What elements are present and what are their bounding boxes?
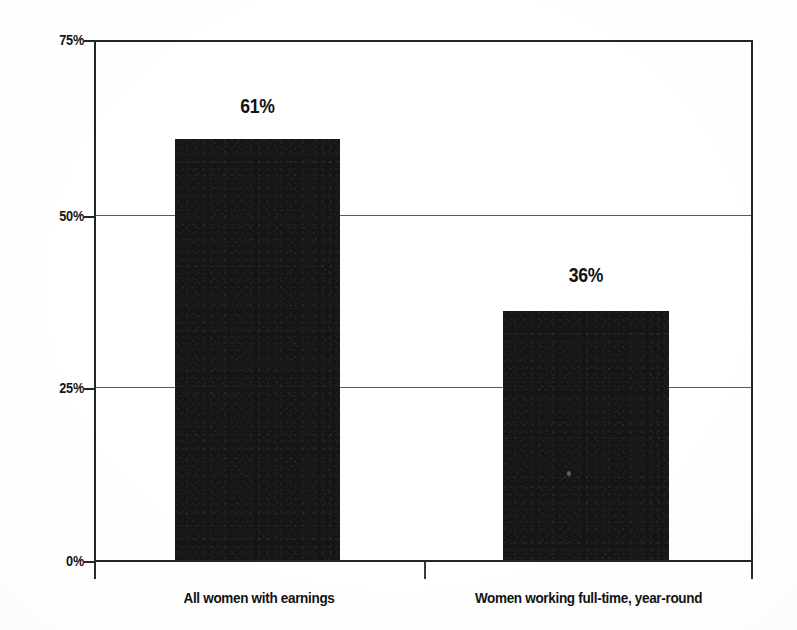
- y-axis-tick-label-50: 50%: [33, 207, 84, 224]
- y-axis-tickmark-25: [84, 388, 94, 390]
- bar-value-label-1: 61%: [185, 95, 330, 118]
- x-axis-category-label-2: Women working full-time, year-round: [440, 589, 736, 606]
- y-axis-tickmark-75: [84, 40, 94, 42]
- bar-chart: 75% 50% 25% 0% 61% 36% All women with ea…: [0, 0, 797, 630]
- y-axis-tick-label-0: 0%: [33, 552, 84, 569]
- bar-women-working-full-time-year-round: [503, 311, 669, 560]
- x-axis-cap-right: [751, 562, 753, 579]
- x-axis-cap-left: [94, 562, 96, 579]
- y-axis-tickmark-0: [84, 561, 94, 563]
- bar-all-women-with-earnings: [175, 139, 340, 560]
- y-axis-tick-label-75: 75%: [33, 31, 84, 48]
- y-axis-tickmark-50: [84, 216, 94, 218]
- bar-value-label-2: 36%: [513, 264, 659, 287]
- plot-area: [94, 40, 753, 562]
- scan-speck: [567, 471, 571, 476]
- y-axis-tick-label-25: 25%: [33, 379, 84, 396]
- x-axis-category-label-1: All women with earnings: [111, 589, 408, 606]
- x-axis-center-tick: [424, 562, 426, 579]
